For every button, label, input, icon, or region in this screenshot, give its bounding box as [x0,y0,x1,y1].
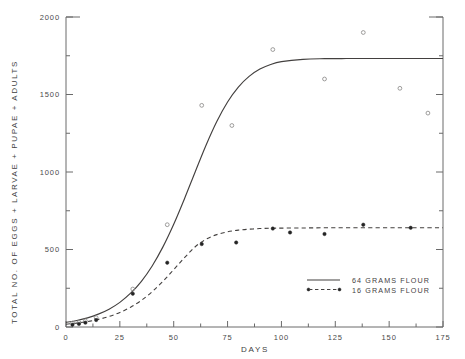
data-point-16-grams [323,232,326,235]
x-tick-label: 175 [435,333,450,342]
data-point-64-grams [271,48,275,52]
y-tick-label: 500 [45,245,60,254]
data-point-64-grams [165,223,169,227]
legend-swatch-16-grams-dot-right [338,288,341,291]
data-point-16-grams [234,241,237,244]
data-point-16-grams [288,231,291,234]
y-tick-label: 1000 [40,168,60,177]
data-point-16-grams [84,321,87,324]
data-point-16-grams [71,323,74,326]
y-tick-label: 1500 [40,90,60,99]
data-point-16-grams [200,242,203,245]
data-point-16-grams [362,223,365,226]
chart-figure: TOTAL NO. OF EGGS + LARVAE + PUPAE + ADU… [0,0,465,359]
legend-label-64-grams: 64 GRAMS FLOUR [352,276,430,285]
data-point-16-grams [131,292,134,295]
x-axis-ticks [66,321,443,327]
x-axis-title: DAYS [241,345,269,354]
x-tick-label: 125 [328,333,343,342]
y-axis-tick-labels: 0500100015002000 [40,13,60,332]
data-point-16-grams [166,261,169,264]
data-point-64-grams [398,86,402,90]
population-growth-chart: TOTAL NO. OF EGGS + LARVAE + PUPAE + ADU… [0,0,465,359]
x-tick-label: 50 [169,333,179,342]
data-point-64-grams [426,111,430,115]
data-point-64-grams [361,31,365,35]
data-point-64-grams [230,124,234,128]
y-tick-label: 2000 [40,13,60,22]
x-tick-label: 0 [63,333,68,342]
x-axis-tick-labels: 0255075100125150175 [63,333,450,342]
data-points-16-grams-flour [71,223,413,326]
chart-legend: 64 GRAMS FLOUR 16 GRAMS FLOUR [307,276,430,295]
data-point-64-grams [323,77,327,81]
x-tick-label: 75 [222,333,232,342]
x-tick-label: 100 [274,333,289,342]
y-tick-label: 0 [55,323,60,332]
x-tick-label: 25 [115,333,125,342]
data-point-64-grams [200,103,204,107]
data-point-16-grams [94,318,97,321]
data-point-16-grams [409,226,412,229]
x-tick-label: 150 [382,333,397,342]
y-axis-title: TOTAL NO. OF EGGS + LARVAE + PUPAE + ADU… [10,60,19,324]
legend-label-16-grams: 16 GRAMS FLOUR [352,286,430,295]
data-point-16-grams [271,227,274,230]
data-point-16-grams [77,322,80,325]
